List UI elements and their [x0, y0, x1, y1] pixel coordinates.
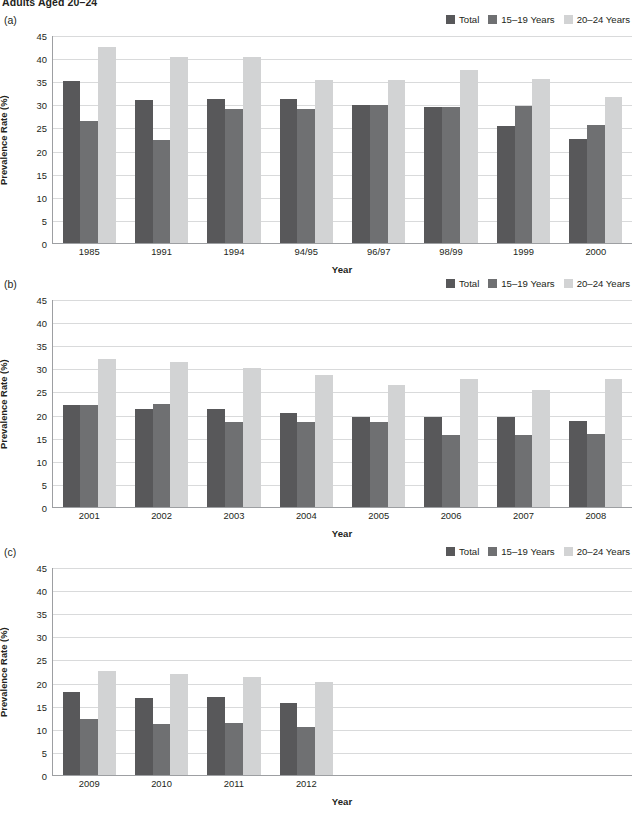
- y-axis-label: Prevalence Rate (%): [0, 36, 14, 244]
- panel-a: (a) Total15–19 Years20–24 Years Prevalen…: [0, 14, 636, 276]
- x-tick-label: 1999: [487, 247, 559, 257]
- x-tick-label: 2007: [487, 511, 559, 521]
- y-axis-ticks: 051015202530354045: [28, 300, 50, 508]
- bar: [243, 677, 261, 775]
- bar: [352, 417, 370, 507]
- bar-group: [415, 568, 487, 775]
- bar: [135, 409, 153, 507]
- bar: [460, 70, 478, 243]
- bar-group: [343, 568, 415, 775]
- bar-group: 2011: [198, 568, 270, 775]
- bar: [352, 105, 370, 243]
- panel-c: (c) Total15–19 Years20–24 Years Prevalen…: [0, 546, 636, 815]
- y-tick-label: 10: [37, 457, 47, 466]
- bar: [63, 692, 81, 775]
- x-tick-label: 2001: [53, 511, 125, 521]
- bar: [63, 81, 81, 243]
- bar: [497, 417, 515, 507]
- bar: [280, 413, 298, 507]
- x-tick-label: 2000: [560, 247, 632, 257]
- bar: [388, 385, 406, 507]
- panel-b: (b) Total15–19 Years20–24 Years Prevalen…: [0, 278, 636, 546]
- bar: [153, 404, 171, 507]
- x-tick-label: 2006: [415, 511, 487, 521]
- bar: [388, 80, 406, 243]
- bar: [370, 105, 388, 243]
- y-tick-label: 35: [37, 610, 47, 619]
- bar: [315, 80, 333, 243]
- y-tick-label: 45: [37, 564, 47, 573]
- bar-group: 94/95: [270, 36, 342, 243]
- bar: [207, 99, 225, 243]
- x-tick-label: 2005: [343, 511, 415, 521]
- y-tick-label: 20: [37, 147, 47, 156]
- bar: [225, 109, 243, 243]
- y-axis-label: Prevalence Rate (%): [0, 568, 14, 776]
- x-tick-label: 98/99: [415, 247, 487, 257]
- bar: [98, 671, 116, 775]
- bar-group: 96/97: [343, 36, 415, 243]
- plot-area: 19851991199494/9596/9798/9919992000: [52, 36, 632, 244]
- x-tick-label: 2002: [125, 511, 197, 521]
- y-tick-label: 40: [37, 587, 47, 596]
- bar: [170, 362, 188, 507]
- bar: [587, 125, 605, 243]
- y-tick-label: 0: [42, 504, 47, 513]
- bar-group: 1999: [487, 36, 559, 243]
- y-tick-label: 15: [37, 702, 47, 711]
- bar: [225, 422, 243, 507]
- bar: [569, 139, 587, 243]
- y-tick-label: 45: [37, 32, 47, 41]
- bar: [207, 409, 225, 507]
- x-tick-label: 1994: [198, 247, 270, 257]
- figure-page: Adults Aged 20–24 (a) Total15–19 Years20…: [0, 0, 636, 815]
- y-axis-ticks: 051015202530354045: [28, 36, 50, 244]
- y-tick-label: 45: [37, 296, 47, 305]
- bar: [424, 107, 442, 243]
- y-tick-label: 10: [37, 193, 47, 202]
- x-axis-label: Year: [52, 264, 632, 275]
- bar: [98, 47, 116, 243]
- x-tick-label: 1985: [53, 247, 125, 257]
- bar: [63, 405, 81, 507]
- x-tick-label: 1991: [125, 247, 197, 257]
- y-tick-label: 20: [37, 679, 47, 688]
- bar-group: 1994: [198, 36, 270, 243]
- bar-group: 2000: [560, 36, 632, 243]
- bar-group: [560, 568, 632, 775]
- bar: [442, 435, 460, 507]
- bar: [153, 140, 171, 243]
- x-tick-label: 2008: [560, 511, 632, 521]
- x-axis-label: Year: [52, 528, 632, 539]
- bar: [225, 723, 243, 775]
- bar-group: 2005: [343, 300, 415, 507]
- bar: [605, 379, 623, 507]
- bar-group: 2004: [270, 300, 342, 507]
- bar-group: 2009: [53, 568, 125, 775]
- y-tick-label: 30: [37, 101, 47, 110]
- bar: [297, 109, 315, 244]
- y-tick-label: 20: [37, 411, 47, 420]
- bar-group: 2006: [415, 300, 487, 507]
- bar: [207, 697, 225, 775]
- bar-group: 2010: [125, 568, 197, 775]
- x-tick-label: 2012: [270, 779, 342, 789]
- page-title: Adults Aged 20–24: [2, 0, 97, 8]
- bar-group: 2002: [125, 300, 197, 507]
- y-axis-label: Prevalence Rate (%): [0, 300, 14, 508]
- y-tick-label: 5: [42, 216, 47, 225]
- bar: [98, 359, 116, 507]
- bar: [80, 121, 98, 243]
- y-tick-label: 0: [42, 240, 47, 249]
- x-tick-label: 96/97: [343, 247, 415, 257]
- chart-a: Prevalence Rate (%)051015202530354045198…: [0, 14, 636, 284]
- bar-group: 2012: [270, 568, 342, 775]
- bar: [515, 106, 533, 243]
- bar: [170, 674, 188, 775]
- bar: [80, 405, 98, 507]
- x-tick-label: 2011: [198, 779, 270, 789]
- bar-group: 2008: [560, 300, 632, 507]
- bar: [315, 682, 333, 775]
- bar: [297, 727, 315, 775]
- bar-group: 98/99: [415, 36, 487, 243]
